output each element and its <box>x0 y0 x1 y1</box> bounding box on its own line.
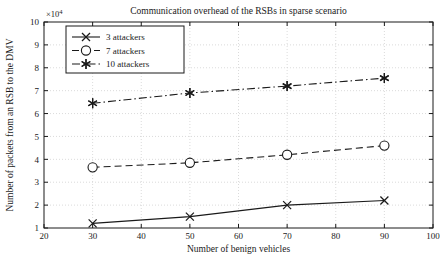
y-tick-label: 1 <box>35 223 40 233</box>
y-tick-label: 9 <box>35 40 40 50</box>
chart-container: 123456789102030405060708090100×104Commun… <box>0 0 442 266</box>
y-tick-label: 5 <box>35 132 40 142</box>
x-tick-label: 80 <box>331 231 341 241</box>
chart-title: Communication overhead of the RSBs in sp… <box>130 6 347 16</box>
x-tick-label: 30 <box>88 231 98 241</box>
x-tick-label: 40 <box>137 231 147 241</box>
data-point-marker-1 <box>185 158 194 167</box>
x-tick-label: 50 <box>185 231 195 241</box>
legend-label-0: 3 attackers <box>106 32 145 42</box>
legend-marker-1 <box>81 46 90 55</box>
y-tick-label: 10 <box>30 17 40 27</box>
y-tick-label: 7 <box>35 86 40 96</box>
x-tick-label: 70 <box>283 231 293 241</box>
legend-label-1: 7 attackers <box>106 46 145 56</box>
legend-label-2: 10 attackers <box>106 59 150 69</box>
x-axis-label: Number of benign vehicles <box>187 244 290 254</box>
x-tick-label: 20 <box>40 231 50 241</box>
x-tick-label: 60 <box>234 231 244 241</box>
data-point-marker-1 <box>380 141 389 150</box>
series-line-2 <box>93 78 385 103</box>
x-tick-label: 100 <box>426 231 440 241</box>
line-chart: 123456789102030405060708090100×104Commun… <box>0 0 442 266</box>
y-tick-label: 6 <box>35 109 40 119</box>
y-axis-label: Number of packets from an RSB to the DMV <box>5 38 15 211</box>
data-point-marker-1 <box>88 163 97 172</box>
y-tick-label: 3 <box>35 177 40 187</box>
y-tick-label: 2 <box>35 200 40 210</box>
data-point-marker-1 <box>283 150 292 159</box>
y-tick-label: 4 <box>35 155 40 165</box>
y-tick-label: 8 <box>35 63 40 73</box>
y-axis-exponent: ×104 <box>46 8 63 19</box>
x-tick-label: 90 <box>380 231 390 241</box>
